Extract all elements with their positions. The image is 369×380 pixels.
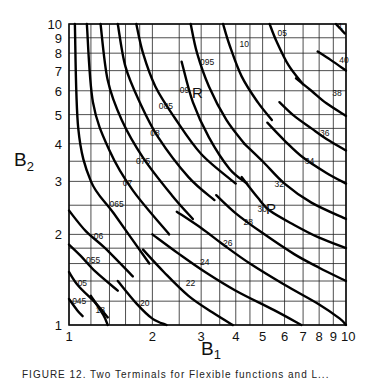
contour-label: 10 (239, 39, 249, 49)
y-tick-label: 4 (55, 137, 62, 152)
y-tick-label: 8 (55, 46, 62, 61)
x-tick-label: 1 (65, 329, 72, 344)
contour-curves (69, 24, 346, 325)
contour-label: 26 (223, 238, 233, 248)
contour-label: 075 (136, 156, 150, 166)
y-axis-ticks: 12345678910 (48, 17, 62, 333)
x-axis-title-main: B (201, 338, 214, 359)
y-axis-title: B2 (14, 149, 34, 174)
x-axis-title-sub: 1 (214, 347, 221, 362)
x-tick-label: 7 (299, 329, 306, 344)
y-tick-label: 6 (55, 84, 62, 99)
contour-label: 32 (274, 179, 284, 189)
contour-label: 1 (338, 21, 343, 31)
x-tick-label: 5 (259, 329, 266, 344)
y-tick-label: 2 (55, 227, 62, 242)
contour-label: 18 (96, 305, 106, 315)
contour-label: 38 (332, 88, 342, 98)
y-tick-label: 9 (55, 31, 62, 46)
contour-label: 22 (186, 278, 196, 288)
y-tick-label: 10 (48, 17, 62, 32)
contour-label: 06 (94, 231, 104, 241)
x-axis-title: B1 (201, 338, 221, 362)
contour-label: 08 (150, 128, 160, 138)
contour-line (136, 24, 235, 184)
x-tick-label: 2 (149, 329, 156, 344)
figure-caption: FIGURE 12. Two Terminals for Flexible fu… (22, 369, 329, 380)
contour-label: 28 (244, 217, 254, 227)
region-label-r: R (192, 84, 203, 101)
contour-label: 095 (200, 57, 214, 67)
y-tick-label: 1 (55, 318, 62, 333)
y-tick-label: 7 (55, 64, 62, 79)
contour-label: 34 (305, 156, 315, 166)
y-tick-label: 5 (55, 108, 62, 123)
contour-label: 05 (78, 278, 88, 288)
region-label-p: P (266, 200, 276, 217)
contour-label: 36 (320, 128, 330, 138)
contour-label: 20 (140, 298, 150, 308)
contour-label: 045 (72, 296, 86, 306)
y-tick-label: 3 (55, 174, 62, 189)
contour-label: 24 (200, 257, 210, 267)
contour-label: 05 (278, 28, 288, 38)
plot-frame (69, 24, 346, 325)
x-tick-label: 6 (281, 329, 288, 344)
x-tick-label: 4 (232, 329, 239, 344)
contour-label: 055 (86, 255, 100, 265)
contour-label: 085 (159, 101, 173, 111)
contour-label: 07 (123, 178, 133, 188)
y-axis-title-main: B (14, 149, 27, 170)
y-axis-title-sub: 2 (27, 159, 34, 174)
contour-label: 40 (339, 55, 349, 65)
x-tick-label: 9 (330, 329, 337, 344)
contour-line (118, 24, 215, 200)
contour-label: 065 (110, 199, 124, 209)
grid-lines (69, 24, 346, 325)
x-tick-label: 8 (316, 329, 323, 344)
contour-line (267, 123, 346, 184)
contour-line (69, 211, 133, 277)
contour-label: 09 (180, 85, 190, 95)
curve-labels: 0450505506065070750808509095100511820222… (72, 21, 349, 315)
x-tick-label: 10 (341, 329, 355, 344)
